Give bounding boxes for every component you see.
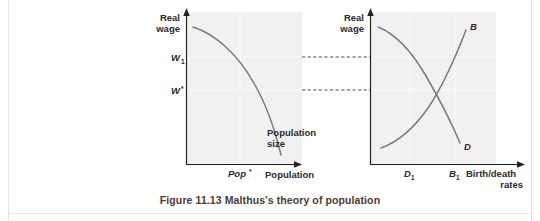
right-b1-subscript: 1 (456, 174, 460, 181)
figure-caption: Figure 11.13 Malthus's theory of populat… (160, 194, 380, 206)
left-y-axis-title-line2: wage (155, 23, 180, 34)
left-popstar-superscript: * (249, 168, 252, 175)
right-curve-d-label: D (464, 141, 471, 152)
right-b1-base: B (449, 168, 456, 179)
connecting-dashed-lines (302, 57, 370, 90)
left-curve-label-line1: Population (267, 127, 316, 138)
right-panel: Real wage B D D 1 B 1 Birth/death rates (339, 8, 525, 190)
figure-caption-wrapper: Figure 11.13 Malthus's theory of populat… (0, 190, 540, 208)
left-curve-label-line2: size (267, 138, 285, 149)
right-d1-subscript: 1 (411, 174, 415, 181)
right-b1-tick-label: B 1 (449, 168, 460, 181)
left-y-axis-title-line1: Real (160, 12, 180, 23)
figure-container: Real wage W 1 W * Pop * Population Popul… (0, 0, 540, 221)
right-curve-b-label: B (470, 21, 477, 32)
left-w1-subscript: 1 (181, 58, 185, 65)
left-w1-base: W (171, 52, 181, 63)
malthus-diagram: Real wage W 1 W * Pop * Population Popul… (0, 0, 540, 221)
right-d1-base: D (404, 168, 411, 179)
right-x-axis-title-line1: Birth/death (466, 168, 516, 179)
left-popstar-base: Pop (228, 168, 246, 179)
right-d1-tick-label: D 1 (404, 168, 415, 181)
right-x-axis-title-line2: rates (500, 179, 523, 190)
left-x-axis-title: Population (265, 169, 314, 180)
left-wstar-base: W (171, 85, 181, 96)
right-y-axis-title-line2: wage (339, 23, 364, 34)
left-wstar-superscript: * (181, 85, 184, 92)
right-y-axis-title-line1: Real (344, 12, 364, 23)
left-wstar-tick-label: W * (171, 85, 184, 96)
left-popstar-tick-label: Pop * (228, 168, 252, 179)
left-panel: Real wage W 1 W * Pop * Population Popul… (155, 8, 316, 180)
left-w1-tick-label: W 1 (171, 52, 185, 65)
